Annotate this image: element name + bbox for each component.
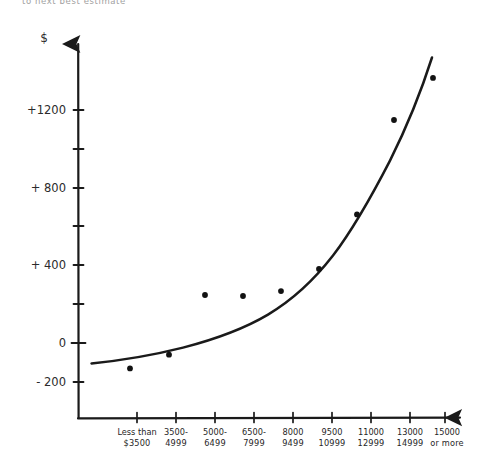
data-point [202, 292, 208, 298]
x-tick-label-7: 13000 14999 [396, 427, 423, 449]
y-tick-label-800: + 800 [16, 181, 66, 195]
x-tick-label-0-line1: Less than [117, 427, 156, 437]
y-axis-currency-label: $ [26, 31, 48, 45]
x-tick-label-4: 8000 9499 [282, 427, 304, 449]
x-tick-label-0: Less than $3500 [117, 427, 156, 449]
data-point [127, 366, 133, 372]
data-point [354, 212, 360, 218]
data-point [166, 352, 172, 358]
x-tick-label-5-line2: 10999 [318, 438, 345, 449]
x-tick-label-6-line2: 12999 [357, 438, 384, 449]
x-tick-label-2-line2: 6499 [203, 438, 227, 449]
x-tick-label-5-line1: 9500 [322, 427, 343, 437]
x-tick-label-4-line2: 9499 [282, 438, 304, 449]
x-tick-label-4-line1: 8000 [283, 427, 304, 437]
y-tick-label-0: 0 [16, 336, 66, 350]
x-tick-label-1-line1: 3500- [164, 427, 188, 437]
hand-drawn-chart-figure [0, 0, 485, 470]
x-tick-label-3: 6500- 7999 [242, 427, 266, 449]
x-tick-label-2: 5000- 6499 [203, 427, 227, 449]
data-point [430, 75, 436, 81]
x-tick-label-2-line1: 5000- [203, 427, 227, 437]
y-axis [72, 44, 86, 418]
fitted-trend-curve [92, 58, 433, 364]
x-tick-label-7-line1: 13000 [397, 427, 423, 437]
x-tick-label-7-line2: 14999 [396, 438, 423, 449]
x-tick-label-8-line2: or more [430, 438, 464, 449]
x-tick-label-1: 3500- 4999 [164, 427, 188, 449]
y-tick-label-400: + 400 [16, 258, 66, 272]
x-tick-label-8: 15000 or more [430, 427, 464, 449]
x-tick-label-8-line1: 15000 [434, 427, 460, 437]
data-points [127, 75, 436, 371]
y-tick-label-1200: +1200 [16, 103, 66, 117]
x-tick-label-5: 9500 10999 [318, 427, 345, 449]
data-point [391, 117, 397, 123]
x-tick-label-3-line2: 7999 [242, 438, 266, 449]
chart-root: to next best estimate [0, 0, 485, 470]
data-point [240, 293, 246, 299]
x-tick-label-0-line2: $3500 [117, 438, 156, 449]
data-point [316, 266, 322, 272]
x-axis [78, 413, 460, 423]
data-point [278, 288, 284, 294]
x-tick-label-6-line1: 11000 [358, 427, 384, 437]
x-tick-label-6: 11000 12999 [357, 427, 384, 449]
x-tick-label-3-line1: 6500- [242, 427, 266, 437]
x-tick-label-1-line2: 4999 [164, 438, 188, 449]
y-tick-label-minus200: - 200 [16, 375, 66, 389]
